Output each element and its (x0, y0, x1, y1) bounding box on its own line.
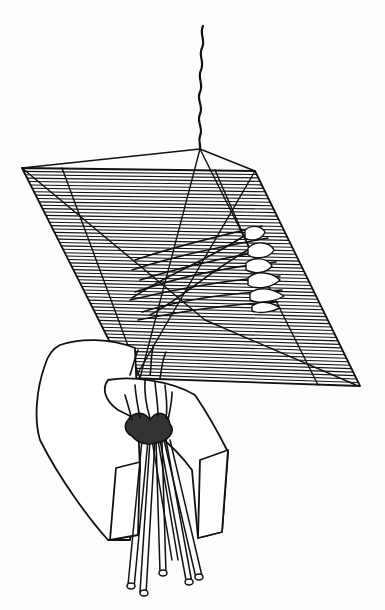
hanging-cord (199, 26, 203, 149)
line-drawing (0, 0, 385, 610)
illustration-canvas: Line drawing of a hanging sculpture: a p… (0, 0, 385, 610)
left-block (37, 340, 140, 540)
